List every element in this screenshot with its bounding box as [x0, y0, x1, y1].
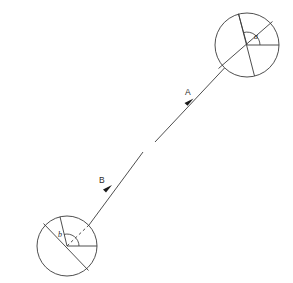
segment-label-a: A	[185, 87, 191, 97]
connector-upper-segment	[155, 68, 225, 142]
bottom-circle-dashed-radius	[67, 225, 89, 246]
arrow-head-b	[103, 185, 112, 192]
diagram-svg: a b A B	[0, 0, 293, 283]
geometry-diagram-canvas: a b A B	[0, 0, 293, 283]
bottom-circle-group: b	[37, 216, 97, 276]
connector-lower-segment	[89, 152, 143, 225]
top-circle-group: a	[215, 13, 279, 77]
bottom-circle-long-chord	[44, 224, 89, 271]
connector-group	[89, 68, 225, 225]
angle-label-a: a	[254, 32, 258, 41]
segment-label-b: B	[99, 175, 105, 185]
angle-label-b: b	[58, 230, 62, 239]
arrowheads-group	[103, 99, 194, 193]
segment-labels-group: A B	[99, 87, 191, 185]
